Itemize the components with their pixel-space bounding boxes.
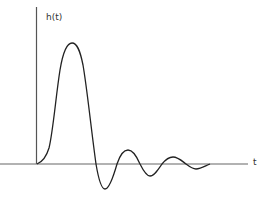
impulse-response-plot [0, 0, 266, 202]
h-t-curve [37, 43, 210, 189]
y-axis-label: h(t) [46, 13, 62, 22]
x-axis-label: t [253, 158, 257, 167]
chart-area: h(t) t [0, 0, 266, 202]
